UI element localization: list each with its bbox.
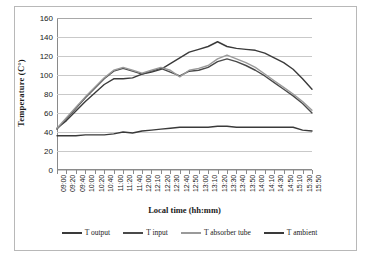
x-tick-label: 12:40: [183, 175, 190, 192]
x-tick-label: 10:00: [88, 175, 95, 192]
x-tick: [180, 170, 181, 174]
x-axis-title: Local time (hh:mm): [57, 205, 312, 215]
x-tick-label: 15:50: [315, 175, 322, 192]
x-tick: [246, 170, 247, 174]
x-tick: [161, 170, 162, 174]
y-tick-label: 160: [27, 14, 53, 23]
legend-label: T output: [85, 228, 111, 237]
x-tick: [123, 170, 124, 174]
x-tick-label: 13:50: [249, 175, 256, 192]
legend-label: T input: [146, 228, 168, 237]
x-tick: [284, 170, 285, 174]
x-tick-label: 10:20: [98, 175, 105, 192]
x-tick-label: 11:40: [136, 175, 143, 192]
x-tick: [142, 170, 143, 174]
series-lines: [57, 18, 312, 170]
x-tick-label: 14:00: [258, 175, 265, 192]
x-tick: [293, 170, 294, 174]
x-tick-label: 09:00: [60, 175, 67, 192]
x-tick: [189, 170, 190, 174]
legend-swatch-icon: [181, 232, 201, 234]
chart-figure: Temperature (C°) 020406080100120140160 0…: [0, 0, 369, 264]
x-tick: [104, 170, 105, 174]
series-line: [57, 55, 312, 128]
x-tick: [95, 170, 96, 174]
legend-label: T absorber tube: [204, 228, 251, 237]
x-tick: [76, 170, 77, 174]
x-tick: [151, 170, 152, 174]
x-tick: [85, 170, 86, 174]
x-tick-label: 13:00: [202, 175, 209, 192]
x-tick-label: 13:20: [221, 175, 228, 192]
x-tick: [208, 170, 209, 174]
x-tick: [199, 170, 200, 174]
x-tick-label: 11:00: [117, 175, 124, 192]
y-tick-label: 40: [27, 128, 53, 137]
y-tick-label: 140: [27, 33, 53, 42]
x-tick-label: 12:20: [164, 175, 171, 192]
x-tick: [312, 170, 313, 174]
series-line: [57, 126, 312, 136]
y-tick-label: 20: [27, 147, 53, 156]
x-tick: [114, 170, 115, 174]
x-tick: [227, 170, 228, 174]
legend-item[interactable]: T input: [123, 228, 168, 237]
legend-swatch-icon: [62, 232, 82, 234]
legend-item[interactable]: T absorber tube: [181, 228, 251, 237]
x-tick: [57, 170, 58, 174]
x-tick: [133, 170, 134, 174]
chart-legend: T outputT inputT absorber tubeT ambient: [57, 228, 322, 237]
x-tick-label: 12:00: [145, 175, 152, 192]
x-tick: [274, 170, 275, 174]
legend-swatch-icon: [264, 232, 284, 234]
x-tick-label: 12:10: [154, 175, 161, 192]
legend-label: T ambient: [287, 228, 317, 237]
y-tick-label: 120: [27, 52, 53, 61]
x-tick: [66, 170, 67, 174]
x-tick: [170, 170, 171, 174]
x-tick: [265, 170, 266, 174]
x-tick-label: 14:30: [277, 175, 284, 192]
x-tick-label: 09:40: [79, 175, 86, 192]
x-tick-label: 14:10: [268, 175, 275, 192]
y-tick-label: 0: [27, 166, 53, 175]
series-line: [57, 42, 312, 128]
x-tick-label: 11:20: [126, 175, 133, 192]
series-line: [57, 59, 312, 129]
x-tick-label: 15:10: [296, 175, 303, 192]
x-tick-label: 10:40: [107, 175, 114, 192]
x-tick: [218, 170, 219, 174]
y-tick-label: 60: [27, 109, 53, 118]
x-tick-label: 09:20: [69, 175, 76, 192]
plot-area: 020406080100120140160 09:0009:2009:4010:…: [57, 18, 312, 170]
x-tick-label: 12:50: [192, 175, 199, 192]
legend-swatch-icon: [123, 232, 143, 234]
x-tick-label: 13:40: [239, 175, 246, 192]
legend-item[interactable]: T output: [62, 228, 111, 237]
x-tick: [255, 170, 256, 174]
x-tick-label: 13:10: [211, 175, 218, 192]
y-tick-label: 100: [27, 71, 53, 80]
x-tick-label: 15:30: [306, 175, 313, 192]
legend-item[interactable]: T ambient: [264, 228, 317, 237]
x-tick-label: 13:30: [230, 175, 237, 192]
x-tick-label: 12:30: [173, 175, 180, 192]
x-tick: [236, 170, 237, 174]
y-tick-label: 80: [27, 90, 53, 99]
y-axis-title: Temperature (C°): [16, 28, 26, 158]
x-tick-label: 14:50: [287, 175, 294, 192]
x-tick: [303, 170, 304, 174]
